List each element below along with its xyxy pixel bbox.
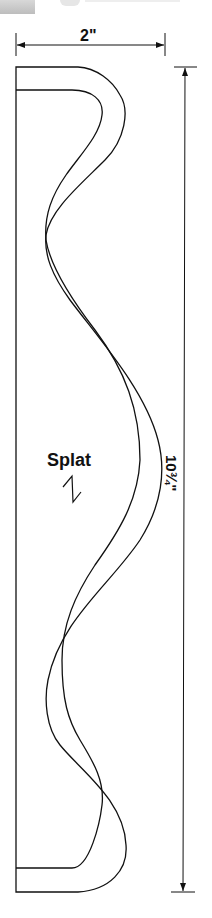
height-dimension-label: 10¾"	[163, 455, 180, 491]
width-dimension-label: 2"	[80, 27, 96, 45]
grain-direction-icon	[63, 476, 81, 502]
splat-inner-outline	[16, 90, 140, 868]
splat-outer-outline	[16, 67, 162, 892]
part-name-label: Splat	[47, 450, 91, 471]
splat-pattern-drawing	[0, 0, 212, 918]
